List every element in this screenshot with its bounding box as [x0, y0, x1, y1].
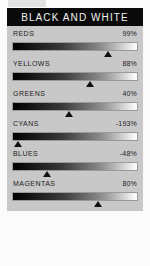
slider-header: CYANS-193% [12, 120, 138, 132]
slider-label-yellows: YELLOWS [13, 60, 50, 67]
slider-gradient-track[interactable] [12, 192, 138, 201]
slider-row: GREENS40% [12, 90, 138, 118]
slider-gradient-track[interactable] [12, 132, 138, 141]
slider-label-greens: GREENS [13, 90, 45, 97]
slider-header: YELLOWS88% [12, 60, 138, 72]
panel-footer [7, 210, 143, 224]
slider-label-reds: REDS [13, 30, 34, 37]
slider-value-yellows[interactable]: 88% [122, 60, 137, 67]
slider-thumb-greens[interactable] [65, 111, 73, 117]
slider-track-wrap[interactable] [12, 162, 138, 178]
slider-row: BLUES-48% [12, 150, 138, 178]
slider-gradient-track[interactable] [12, 72, 138, 81]
slider-list: REDS99%YELLOWS88%GREENS40%CYANS-193%BLUE… [7, 26, 143, 208]
slider-label-magentas: MAGENTAS [13, 180, 55, 187]
slider-row: MAGENTAS80% [12, 180, 138, 208]
black-and-white-panel: BLACK AND WHITE REDS99%YELLOWS88%GREENS4… [7, 8, 143, 211]
slider-value-blues[interactable]: -48% [120, 150, 137, 157]
slider-gradient-track[interactable] [12, 162, 138, 171]
slider-value-magentas[interactable]: 80% [122, 180, 137, 187]
slider-track-wrap[interactable] [12, 72, 138, 88]
slider-header: GREENS40% [12, 90, 138, 102]
slider-header: MAGENTAS80% [12, 180, 138, 192]
slider-label-cyans: CYANS [13, 120, 39, 127]
slider-track-wrap[interactable] [12, 102, 138, 118]
slider-track-wrap[interactable] [12, 192, 138, 208]
slider-thumb-yellows[interactable] [86, 81, 94, 87]
slider-thumb-magentas[interactable] [94, 201, 102, 207]
slider-gradient-track[interactable] [12, 42, 138, 51]
slider-value-cyans[interactable]: -193% [116, 120, 137, 127]
slider-value-greens[interactable]: 40% [122, 90, 137, 97]
slider-gradient-track[interactable] [12, 102, 138, 111]
slider-header: BLUES-48% [12, 150, 138, 162]
slider-row: CYANS-193% [12, 120, 138, 148]
slider-thumb-blues[interactable] [43, 171, 51, 177]
slider-header: REDS99% [12, 30, 138, 42]
slider-label-blues: BLUES [13, 150, 38, 157]
slider-row: REDS99% [12, 30, 138, 58]
panel-title-bar: BLACK AND WHITE [7, 8, 143, 26]
slider-thumb-reds[interactable] [104, 51, 112, 57]
panel-title: BLACK AND WHITE [21, 12, 129, 23]
slider-row: YELLOWS88% [12, 60, 138, 88]
slider-value-reds[interactable]: 99% [122, 30, 137, 37]
slider-track-wrap[interactable] [12, 42, 138, 58]
slider-track-wrap[interactable] [12, 132, 138, 148]
panel-tab-stub [8, 0, 46, 7]
slider-thumb-cyans[interactable] [14, 141, 22, 147]
